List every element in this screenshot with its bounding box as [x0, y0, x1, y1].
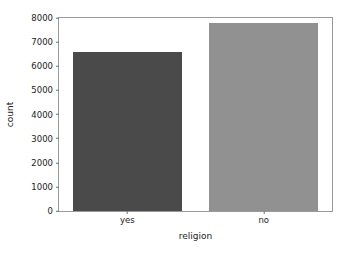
x-tick-label: yes	[120, 216, 135, 225]
y-tick-label: 7000	[31, 38, 56, 47]
x-tick-label: no	[258, 216, 269, 225]
y-tick-mark	[56, 90, 59, 91]
y-tick-mark	[56, 211, 59, 212]
y-tick-8000: 8000	[31, 14, 59, 23]
y-tick-label: 2000	[31, 159, 56, 168]
y-tick-mark	[56, 114, 59, 115]
bar-yes	[73, 52, 182, 211]
y-tick-4000: 4000	[31, 110, 59, 119]
y-tick-0: 0	[48, 207, 59, 216]
y-tick-6000: 6000	[31, 62, 59, 71]
y-tick-label: 8000	[31, 14, 56, 23]
plot-area	[59, 18, 332, 211]
y-tick-label: 5000	[31, 86, 56, 95]
y-tick-label: 0	[48, 207, 56, 216]
y-tick-2000: 2000	[31, 159, 59, 168]
x-tick-mark	[263, 211, 264, 214]
y-tick-mark	[56, 138, 59, 139]
y-tick-label: 6000	[31, 62, 56, 71]
y-axis-label-text: count	[7, 102, 16, 127]
x-axis-label: religion	[58, 232, 333, 241]
y-tick-mark	[56, 66, 59, 67]
y-tick-mark	[56, 162, 59, 163]
y-tick-label: 3000	[31, 134, 56, 143]
x-tick-no: no	[258, 211, 269, 225]
x-tick-mark	[127, 211, 128, 214]
y-tick-mark	[56, 186, 59, 187]
plot-axes: yesno010002000300040005000600070008000	[58, 17, 333, 212]
x-tick-yes: yes	[120, 211, 135, 225]
bar-chart-figure: count yesno01000200030004000500060007000…	[0, 0, 350, 253]
y-tick-7000: 7000	[31, 38, 59, 47]
y-tick-5000: 5000	[31, 86, 59, 95]
y-tick-1000: 1000	[31, 183, 59, 192]
y-tick-3000: 3000	[31, 134, 59, 143]
y-tick-mark	[56, 42, 59, 43]
y-axis-label: count	[5, 17, 17, 212]
y-tick-mark	[56, 18, 59, 19]
y-tick-label: 1000	[31, 183, 56, 192]
y-tick-label: 4000	[31, 110, 56, 119]
bar-no	[209, 23, 318, 211]
